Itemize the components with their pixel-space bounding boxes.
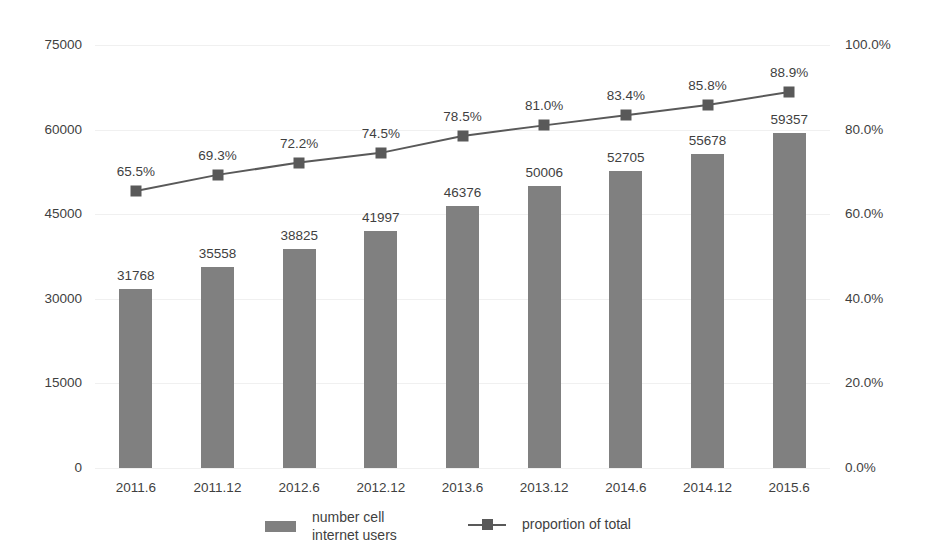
category-axis-label: 2014.6 (605, 481, 646, 495)
line-value-label: 72.2% (280, 137, 318, 151)
right-axis-tick-label: 100.0% (845, 38, 891, 52)
combo-chart: 01500030000450006000075000 0.0%20.0%40.0… (0, 0, 926, 559)
category-axis-label: 2013.12 (520, 481, 569, 495)
left-axis-tick-label: 60000 (44, 123, 82, 137)
line-value-label: 74.5% (362, 127, 400, 141)
right-axis-tick-label: 20.0% (845, 377, 883, 391)
left-axis-tick-label: 0 (74, 461, 82, 475)
category-axis-label: 2015.6 (769, 481, 810, 495)
line-marker[interactable] (130, 185, 141, 196)
category-axis-label: 2013.6 (442, 481, 483, 495)
line-value-label: 69.3% (198, 149, 236, 163)
line-marker[interactable] (294, 157, 305, 168)
left-axis-tick-label: 75000 (44, 38, 82, 52)
right-axis-tick-label: 0.0% (845, 461, 876, 475)
category-axis-label: 2014.12 (683, 481, 732, 495)
line-value-label: 83.4% (607, 89, 645, 103)
right-axis-tick-label: 40.0% (845, 292, 883, 306)
line-marker-icon (468, 519, 506, 531)
category-axis-label: 2011.6 (116, 481, 156, 495)
right-percentage-axis: 0.0%20.0%40.0%60.0%80.0%100.0% (845, 45, 925, 468)
legend-label: number cell internet users (312, 509, 397, 544)
category-axis-label: 2011.12 (194, 481, 242, 495)
line-value-label: 85.8% (688, 79, 726, 93)
line-value-label: 88.9% (770, 66, 808, 80)
legend-item-number-cell-internet-users[interactable]: number cell internet users (265, 509, 397, 544)
line-value-label: 78.5% (443, 110, 481, 124)
legend-label: proportion of total (522, 516, 631, 534)
right-axis-tick-label: 60.0% (845, 207, 883, 221)
line-marker[interactable] (620, 110, 631, 121)
line-value-label: 81.0% (525, 99, 563, 113)
line-marker[interactable] (784, 86, 795, 97)
legend-item-proportion-of-total[interactable]: proportion of total (468, 516, 631, 534)
line-value-label: 65.5% (117, 165, 155, 179)
line-marker[interactable] (702, 100, 713, 111)
left-axis-tick-label: 45000 (44, 207, 82, 221)
bar-swatch-icon (265, 521, 296, 532)
category-axis-label: 2012.12 (356, 481, 405, 495)
line-marker[interactable] (457, 130, 468, 141)
left-axis-tick-label: 30000 (44, 292, 82, 306)
line-marker[interactable] (212, 169, 223, 180)
plot-area: 3176835558388254199746376500065270555678… (95, 45, 830, 468)
left-value-axis: 01500030000450006000075000 (0, 45, 82, 468)
right-axis-tick-label: 80.0% (845, 123, 883, 137)
left-axis-tick-label: 15000 (44, 377, 82, 391)
line-marker[interactable] (539, 120, 550, 131)
chart-legend: number cell internet users proportion of… (0, 505, 926, 559)
gridline (95, 468, 830, 469)
category-axis-label: 2012.6 (279, 481, 320, 495)
line-marker[interactable] (375, 147, 386, 158)
